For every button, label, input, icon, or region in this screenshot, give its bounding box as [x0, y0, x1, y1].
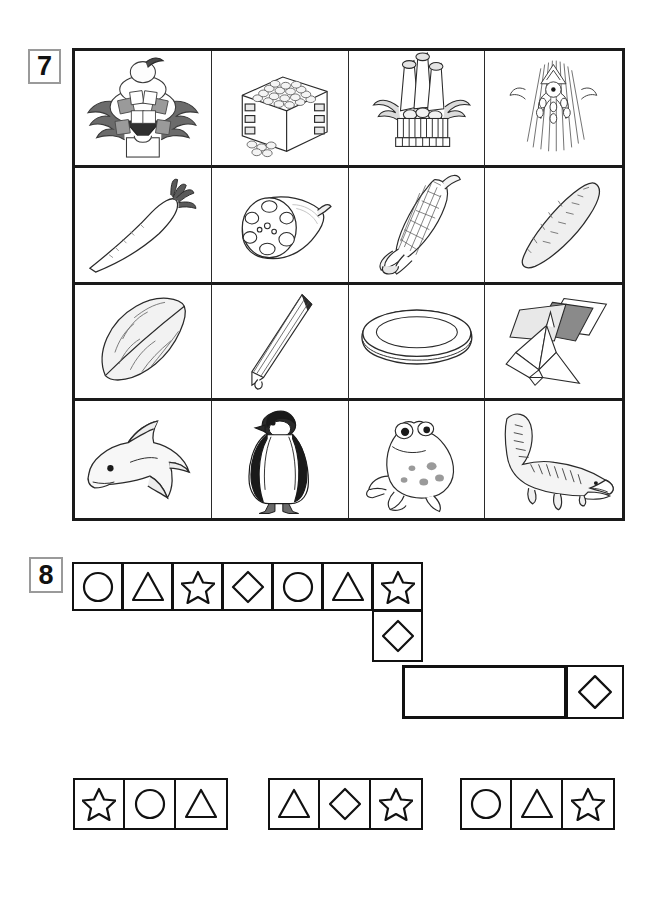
option-2-cell-3[interactable]: [371, 780, 421, 828]
grid-cell-dolphin[interactable]: [75, 401, 212, 518]
problem-number-8: 8: [29, 557, 63, 593]
circle-icon: [133, 787, 167, 821]
answer-option-1[interactable]: [73, 778, 228, 830]
option-3-cell-2[interactable]: [512, 780, 562, 828]
grid-cell-origami-crane[interactable]: [485, 285, 622, 402]
frog-icon: [349, 401, 485, 518]
corn-cob-icon: [349, 168, 485, 282]
circle-icon: [281, 570, 315, 604]
grid-cell-lotus-root[interactable]: [212, 168, 349, 285]
grid-cell-kagami-mochi[interactable]: [75, 51, 212, 168]
grid-cell-frog[interactable]: [349, 401, 486, 518]
star-icon: [379, 787, 413, 821]
pattern-tile-4[interactable]: [222, 562, 273, 611]
diamond-icon: [381, 619, 415, 653]
triangle-icon: [184, 787, 218, 821]
triangle-icon: [277, 787, 311, 821]
grid-cell-shimekazari[interactable]: [485, 51, 622, 168]
option-1-cell-1[interactable]: [75, 780, 125, 828]
option-2-cell-1[interactable]: [270, 780, 320, 828]
leaf-icon: [75, 285, 211, 399]
lotus-root-icon: [212, 168, 348, 282]
shimekazari-icon: [485, 51, 622, 165]
grid-cell-masu-box-beans[interactable]: [212, 51, 349, 168]
pattern-tile-7[interactable]: [372, 562, 423, 611]
star-icon: [181, 570, 215, 604]
plate-icon: [349, 285, 485, 399]
kadomatsu-icon: [349, 51, 485, 165]
option-2-cell-2[interactable]: [320, 780, 370, 828]
pattern-tile-6[interactable]: [322, 562, 373, 611]
circle-icon: [469, 787, 503, 821]
pencil-icon: [212, 285, 348, 399]
pattern-tile-3[interactable]: [172, 562, 223, 611]
pattern-tile-tail-diamond[interactable]: [566, 665, 624, 719]
diamond-icon: [231, 570, 265, 604]
crocodile-icon: [485, 401, 622, 518]
answer-option-3[interactable]: [460, 778, 615, 830]
diamond-icon: [577, 674, 613, 710]
triangle-icon: [131, 570, 165, 604]
star-icon: [82, 787, 116, 821]
grid-cell-plate[interactable]: [349, 285, 486, 402]
star-icon: [381, 570, 415, 604]
daikon-radish-icon: [75, 168, 211, 282]
grid-cell-penguin[interactable]: [212, 401, 349, 518]
grid-cell-pencil[interactable]: [212, 285, 349, 402]
answer-option-2[interactable]: [268, 778, 423, 830]
star-icon: [571, 787, 605, 821]
answer-blank-strip[interactable]: [402, 665, 567, 719]
option-1-cell-2[interactable]: [125, 780, 175, 828]
problem-number-7: 7: [28, 49, 61, 84]
triangle-icon: [331, 570, 365, 604]
grid-cell-crocodile[interactable]: [485, 401, 622, 518]
grid-cell-corn-cob[interactable]: [349, 168, 486, 285]
picture-grid: [72, 48, 625, 521]
masu-box-beans-icon: [212, 51, 348, 165]
option-3-cell-1[interactable]: [462, 780, 512, 828]
pattern-tile-8[interactable]: [372, 610, 423, 662]
diamond-icon: [328, 787, 362, 821]
option-1-cell-3[interactable]: [176, 780, 226, 828]
origami-crane-icon: [485, 285, 622, 399]
grid-cell-kadomatsu[interactable]: [349, 51, 486, 168]
dolphin-icon: [75, 401, 211, 518]
penguin-icon: [212, 401, 348, 518]
pattern-tile-5[interactable]: [272, 562, 323, 611]
kagami-mochi-icon: [75, 51, 211, 165]
pattern-tile-2[interactable]: [122, 562, 173, 611]
option-3-cell-3[interactable]: [563, 780, 613, 828]
pattern-tile-1[interactable]: [72, 562, 123, 611]
grid-cell-daikon-radish[interactable]: [75, 168, 212, 285]
grid-cell-leaf[interactable]: [75, 285, 212, 402]
sweet-potato-icon: [485, 168, 622, 282]
circle-icon: [81, 570, 115, 604]
triangle-icon: [520, 787, 554, 821]
grid-cell-sweet-potato[interactable]: [485, 168, 622, 285]
